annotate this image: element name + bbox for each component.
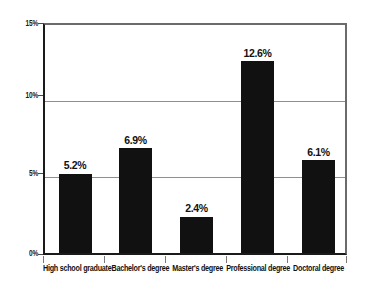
bar-doctoral-degree[interactable]: 6.1% bbox=[302, 160, 335, 253]
bar-value-professional-degree: 12.6% bbox=[244, 48, 272, 59]
bar-value-masters-degree: 2.4% bbox=[185, 203, 207, 214]
x-axis-label-bachelors-degree: Bachelor's degree bbox=[111, 263, 169, 272]
bars-layer: 5.2% 6.9% 2.4% 12.6% 6.1% bbox=[45, 25, 345, 253]
bar-group-professional-degree[interactable]: 12.6% bbox=[227, 25, 288, 253]
x-axis: High school graduate Bachelor's degree M… bbox=[43, 263, 347, 270]
bar-group-high-school-graduate[interactable]: 5.2% bbox=[45, 25, 105, 253]
bar-professional-degree[interactable]: 12.6% bbox=[241, 61, 274, 253]
x-axis-label-high-school-graduate: High school graduate bbox=[43, 263, 111, 272]
bar-chart: 15% 10% 5% 0% 5.2% 6.9% 2 bbox=[0, 0, 367, 293]
bar-group-bachelors-degree[interactable]: 6.9% bbox=[105, 25, 166, 253]
plot-area: 5.2% 6.9% 2.4% 12.6% 6.1% bbox=[43, 23, 347, 255]
bar-value-bachelors-degree: 6.9% bbox=[124, 135, 146, 146]
bar-high-school-graduate[interactable]: 5.2% bbox=[59, 174, 92, 253]
y-axis-label-0: 0% bbox=[18, 249, 38, 258]
bar-group-doctoral-degree[interactable]: 6.1% bbox=[288, 25, 349, 253]
y-axis-label-10: 10% bbox=[18, 91, 38, 100]
y-axis-label-5: 5% bbox=[18, 169, 38, 178]
x-tick-mark-5 bbox=[346, 256, 347, 263]
y-axis-label-15: 15% bbox=[18, 19, 38, 28]
bar-group-masters-degree[interactable]: 2.4% bbox=[166, 25, 227, 253]
bar-masters-degree[interactable]: 2.4% bbox=[180, 217, 213, 253]
bar-value-doctoral-degree: 6.1% bbox=[307, 147, 329, 158]
x-axis-label-doctoral-degree: Doctoral degree bbox=[290, 263, 347, 272]
bar-bachelors-degree[interactable]: 6.9% bbox=[119, 148, 152, 253]
x-axis-label-professional-degree: Professional degree bbox=[226, 263, 290, 272]
x-axis-label-masters-degree: Master's degree bbox=[169, 263, 226, 272]
bar-value-high-school-graduate: 5.2% bbox=[64, 160, 86, 171]
